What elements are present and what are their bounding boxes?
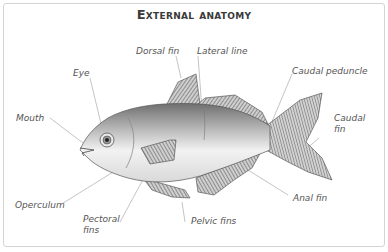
label-anal-fin: Anal fin [293, 193, 327, 203]
label-caudal-fin-line2: fin [334, 124, 346, 134]
eye-pupil [105, 138, 109, 142]
label-pectoral-fins-line1: Pectoral [83, 214, 120, 224]
label-caudal-peduncle: Caudal peduncle [292, 66, 367, 76]
label-lateral-line: Lateral line [197, 46, 247, 56]
fish-illustration [0, 0, 388, 252]
label-eye: Eye [73, 68, 90, 78]
label-pectoral-fins-line2: fins [83, 225, 99, 235]
label-operculum: Operculum [15, 200, 65, 210]
label-mouth: Mouth [16, 113, 44, 123]
label-dorsal-fin: Dorsal fin [136, 46, 179, 56]
label-pelvic-fins: Pelvic fins [191, 216, 236, 226]
dorsal-fin-front [165, 74, 200, 108]
caudal-fin [266, 93, 332, 180]
label-caudal-fin-line1: Caudal [334, 113, 365, 123]
